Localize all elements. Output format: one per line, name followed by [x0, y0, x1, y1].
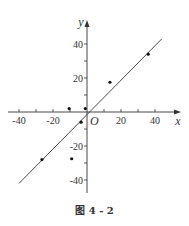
y-axis-arrow-icon	[85, 20, 90, 27]
figure-caption: 图 4 - 2	[0, 202, 189, 217]
x-tick-label: 40	[150, 115, 160, 126]
regression-line	[19, 39, 162, 184]
tick-labels: -40-2020404020-20-40xyO	[12, 15, 181, 186]
x-tick-label: -20	[46, 115, 59, 126]
origin-label: O	[90, 114, 99, 128]
data-point	[70, 157, 73, 160]
data-point	[84, 107, 87, 110]
data-point	[79, 121, 82, 124]
data-point	[147, 53, 150, 56]
scatter-chart: -40-2020404020-20-40xyO	[0, 0, 189, 200]
y-tick-label: -20	[70, 141, 83, 152]
x-tick-label: 20	[116, 115, 126, 126]
y-tick-label: 20	[73, 73, 83, 84]
x-tick-label: -40	[12, 115, 25, 126]
x-axis-label: x	[174, 114, 181, 128]
data-point	[108, 81, 111, 84]
data-point	[68, 107, 71, 110]
y-axis-label: y	[77, 15, 84, 29]
y-tick-label: 40	[73, 39, 83, 50]
y-tick-label: -40	[70, 175, 83, 186]
fitted-line	[19, 39, 162, 184]
data-point	[40, 158, 43, 161]
